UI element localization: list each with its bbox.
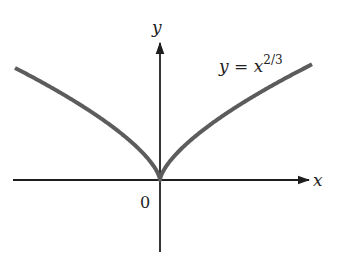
curve-x-two-thirds bbox=[15, 64, 312, 180]
function-annotation: y = x2/3 bbox=[218, 53, 283, 76]
origin-label: 0 bbox=[140, 193, 150, 212]
annotation-exponent: 2/3 bbox=[263, 53, 282, 67]
x-axis-label: x bbox=[313, 170, 323, 190]
y-axis-label: y bbox=[151, 17, 162, 37]
chart: x y 0 y = x2/3 bbox=[0, 0, 340, 264]
annotation-main: y = x bbox=[218, 56, 264, 76]
